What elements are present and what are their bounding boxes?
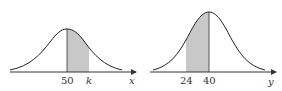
right-axis-label-y: y	[267, 76, 274, 87]
left-axis-label-x: x	[129, 75, 135, 86]
left-shaded-region	[67, 29, 89, 72]
right-normal-curve-diagram: 24 40 y	[150, 12, 276, 87]
right-shaded-region	[186, 12, 209, 72]
left-k-label: k	[86, 75, 92, 86]
right-lower-bound-label: 24	[180, 75, 193, 86]
left-normal-curve-diagram: 50 k x	[10, 29, 136, 86]
right-mean-label: 40	[203, 75, 216, 86]
left-bell-curve	[10, 29, 122, 70]
left-mean-label: 50	[61, 75, 74, 86]
normal-distribution-diagrams: 50 k x 24 40 y	[0, 0, 282, 91]
